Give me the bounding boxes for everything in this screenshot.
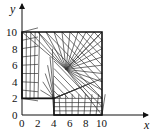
y-tick-label: 8	[12, 43, 18, 55]
x-tick-label: 2	[35, 117, 41, 129]
y-axis-label: y	[9, 2, 16, 16]
y-tick-label: 10	[6, 26, 18, 38]
x-tick-label: 0	[19, 117, 25, 129]
x-tick-label: 6	[67, 117, 73, 129]
y-tick-label: 6	[12, 59, 18, 71]
y-tick-label: 4	[12, 76, 18, 88]
y-tick-label: 0	[12, 109, 18, 121]
mesh-lines	[22, 28, 105, 115]
x-tick-label: 10	[96, 117, 108, 129]
y-tick-label: 2	[12, 92, 18, 104]
mesh-diagram: 0246810 0246810 x y	[0, 0, 160, 134]
x-tick-label: 8	[83, 117, 89, 129]
x-axis-label: x	[143, 118, 150, 132]
y-tick-labels: 0246810	[6, 26, 18, 121]
x-tick-label: 4	[51, 117, 57, 129]
x-tick-labels: 0246810	[19, 117, 108, 129]
mesh-plot: 0246810 0246810 x y	[0, 0, 160, 134]
